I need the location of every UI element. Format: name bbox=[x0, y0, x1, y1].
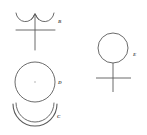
figure-label-c: C bbox=[57, 114, 60, 119]
figure-b-group bbox=[16, 13, 55, 50]
figure-d-center-dot bbox=[34, 81, 35, 82]
figure-label-e: E bbox=[133, 52, 136, 57]
figure-e-group bbox=[96, 33, 131, 92]
figure-b-peak-left bbox=[32, 14, 36, 20]
figure-drawing-group bbox=[0, 0, 147, 135]
figure-b-left-arc bbox=[16, 13, 35, 22]
figure-d-group bbox=[15, 62, 55, 102]
figure-b-right-arc bbox=[36, 13, 55, 22]
figure-e-circle bbox=[98, 33, 128, 63]
figure-label-d: D bbox=[58, 80, 62, 85]
diagram-canvas: B D C E bbox=[0, 0, 147, 135]
figure-c-outer-arc bbox=[13, 104, 57, 126]
figure-b-peak-right bbox=[35, 14, 39, 20]
figure-c-group bbox=[13, 103, 57, 126]
figure-c-inner-arc bbox=[16, 103, 54, 122]
figure-label-b: B bbox=[58, 19, 61, 24]
